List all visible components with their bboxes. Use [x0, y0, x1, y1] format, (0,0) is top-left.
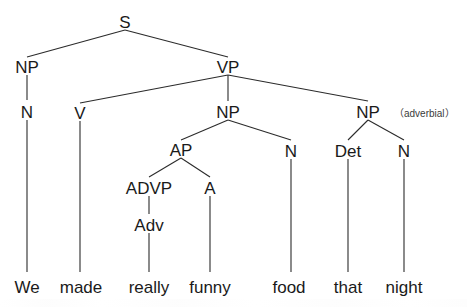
edge-vp-to-v: [80, 75, 228, 103]
node-advp[interactable]: ADVP: [126, 179, 172, 198]
edge-np-adverbial-to-det: [348, 120, 368, 140]
leaf-really[interactable]: really: [129, 278, 170, 297]
edge-ap-to-a: [181, 158, 210, 177]
leaf-we[interactable]: We: [14, 278, 39, 297]
leaf-that[interactable]: that: [334, 278, 363, 297]
node-det[interactable]: Det: [335, 142, 362, 161]
edge-np-adverbial-to-n: [368, 120, 404, 140]
leaf-night[interactable]: night: [386, 278, 423, 297]
edge-ap-to-advp: [149, 158, 181, 177]
edge-s-to-vp: [125, 30, 228, 57]
leaf-made[interactable]: made: [60, 278, 103, 297]
edge-s-to-np-subject: [27, 30, 125, 57]
node-n-subject[interactable]: N: [21, 103, 33, 122]
node-np-adverbial[interactable]: NP: [356, 103, 380, 122]
syntax-tree-diagram: S NP VP N V NP NP （adverbial） AP N Det N…: [0, 0, 467, 308]
diagram-stage: S NP VP N V NP NP （adverbial） AP N Det N…: [0, 0, 467, 308]
leaf-funny[interactable]: funny: [189, 278, 231, 297]
node-n-adverbial[interactable]: N: [398, 142, 410, 161]
node-s[interactable]: S: [119, 13, 130, 32]
edge-vp-to-np-adverbial: [228, 75, 368, 101]
node-a[interactable]: A: [204, 179, 216, 198]
edge-np-object-to-ap: [181, 120, 228, 140]
node-v[interactable]: V: [74, 104, 86, 123]
leaf-food[interactable]: food: [272, 278, 305, 297]
node-adv[interactable]: Adv: [134, 216, 164, 235]
node-np-subject[interactable]: NP: [15, 58, 39, 77]
node-ap[interactable]: AP: [170, 141, 193, 160]
edge-np-object-to-n: [228, 120, 291, 140]
node-np-object[interactable]: NP: [216, 103, 240, 122]
node-n-object[interactable]: N: [285, 142, 297, 161]
node-vp[interactable]: VP: [217, 58, 240, 77]
adverbial-annotation: （adverbial）: [394, 108, 455, 119]
